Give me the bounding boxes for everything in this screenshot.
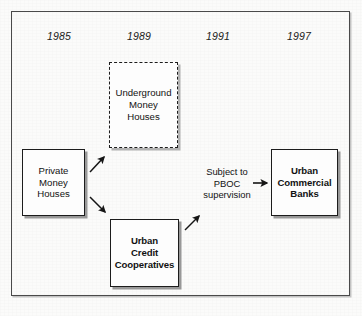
node-private-money-houses: Private Money Houses <box>22 149 85 216</box>
node-urban-credit-cooperatives-label: Urban Credit Cooperatives <box>112 235 178 270</box>
node-underground-money-houses: Underground Money Houses <box>109 62 178 148</box>
timeline-year-1985: 1985 <box>47 30 71 42</box>
node-private-money-houses-label: Private Money Houses <box>34 165 73 200</box>
node-urban-commercial-banks: Urban Commercial Banks <box>271 149 338 216</box>
node-underground-money-houses-label: Underground Money Houses <box>112 87 174 122</box>
timeline-year-1991: 1991 <box>206 30 230 42</box>
node-urban-credit-cooperatives: Urban Credit Cooperatives <box>110 219 179 287</box>
timeline-year-1989: 1989 <box>127 30 151 42</box>
diagram-canvas: 1985 1989 1991 1997 Private Money Houses… <box>0 0 362 316</box>
timeline-year-1997: 1997 <box>287 30 311 42</box>
annotation-pboc-supervision: Subject to PBOC supervision <box>196 166 258 201</box>
node-urban-commercial-banks-label: Urban Commercial Banks <box>275 165 335 200</box>
